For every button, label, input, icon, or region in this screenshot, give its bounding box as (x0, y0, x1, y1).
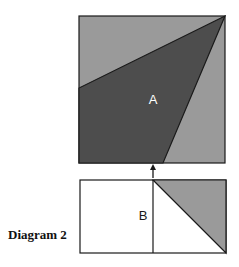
label-a: A (149, 92, 158, 107)
bottom-rect: B (80, 180, 226, 253)
top-square: A (79, 16, 225, 163)
label-b: B (139, 208, 148, 223)
up-arrow-icon (150, 164, 156, 178)
diagram-caption: Diagram 2 (8, 227, 67, 243)
